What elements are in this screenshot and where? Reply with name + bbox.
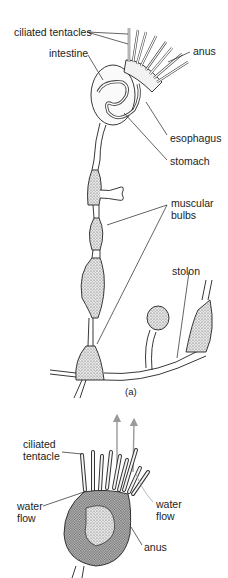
label-anus-b: anus (144, 542, 167, 553)
label-stomach: stomach (170, 156, 210, 167)
label-ciliated-tentacle-line2: tentacle (23, 450, 60, 462)
label-water-flow-right-line1: water (156, 498, 182, 510)
panel-b-drawing (64, 418, 148, 578)
entoproct-anatomy-figure: ciliated tentacles intestine anus esopha… (0, 0, 228, 578)
label-water-flow-left-line1: water (17, 500, 43, 512)
label-esophagus: esophagus (170, 133, 221, 144)
label-water-flow-right-line2: flow (156, 510, 175, 522)
panel-a-caption: (a) (125, 386, 137, 397)
label-water-flow-right: water flow (156, 498, 182, 522)
label-ciliated-tentacles: ciliated tentacles (14, 27, 92, 38)
label-muscular-bulbs-line2: bulbs (171, 209, 196, 221)
label-muscular-bulbs: muscular bulbs (171, 197, 214, 221)
label-muscular-bulbs-line1: muscular (171, 197, 214, 209)
label-water-flow-left-line2: flow (17, 512, 36, 524)
label-stolon: stolon (172, 266, 200, 277)
anatomy-illustration (0, 0, 228, 578)
label-water-flow-left: water flow (17, 500, 43, 524)
label-ciliated-tentacle-line1: ciliated (23, 438, 56, 450)
label-intestine: intestine (49, 48, 88, 59)
label-ciliated-tentacle: ciliated tentacle (23, 438, 60, 462)
label-anus-a: anus (193, 46, 216, 57)
